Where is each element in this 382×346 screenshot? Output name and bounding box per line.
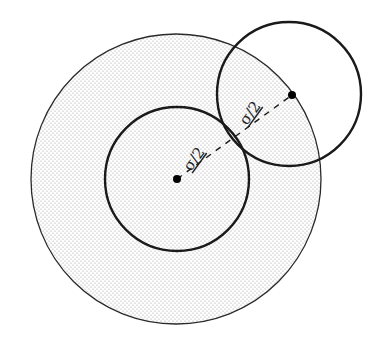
excluded-volume-diagram: σ/2 σ/2 <box>0 0 382 346</box>
central-particle-center-dot <box>173 175 181 183</box>
neighbor-particle-center-dot <box>288 91 296 99</box>
diagram-canvas: σ/2 σ/2 <box>0 0 382 346</box>
